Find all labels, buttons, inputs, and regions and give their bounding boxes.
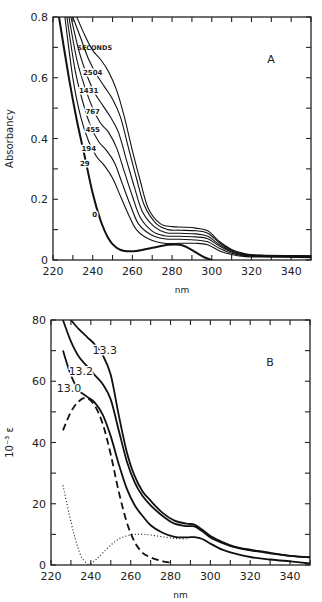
y-tick-label: 0.6 <box>31 72 49 85</box>
y-tick-label: 60 <box>32 375 46 388</box>
y-tick-label: 0.8 <box>31 11 49 24</box>
x-tick-label: 300 <box>201 265 222 278</box>
x-tick-label: 320 <box>240 570 261 583</box>
series-line <box>63 485 187 564</box>
x-tick-label: 260 <box>122 265 143 278</box>
x-tick-label: 280 <box>162 265 183 278</box>
y-tick-label: 20 <box>32 498 46 511</box>
y-tick-label: 0.2 <box>31 193 49 206</box>
x-tick-label: 240 <box>80 570 101 583</box>
series-label: 0 <box>92 211 97 219</box>
y-tick-label: 0 <box>41 254 48 267</box>
y-axis-label: 10⁻³ ε <box>4 427 15 458</box>
series-line <box>71 17 311 256</box>
y-axis-label: Absorbancy <box>4 109 15 168</box>
series-line <box>73 17 311 256</box>
series-line <box>77 17 311 256</box>
x-axis-label: nm <box>173 590 187 600</box>
x-tick-label: 340 <box>281 265 302 278</box>
panel-label: B <box>266 356 274 369</box>
y-tick-label: 0.4 <box>31 133 49 146</box>
series-label: 455 <box>85 126 100 134</box>
series-label: 194 <box>81 145 96 153</box>
series-line <box>59 17 212 260</box>
series-label: 13.3 <box>93 344 118 357</box>
series-line <box>63 351 310 564</box>
x-axis-label: nm <box>175 285 189 295</box>
series-label: 13.2 <box>69 365 94 378</box>
x-tick-label: 240 <box>82 265 103 278</box>
x-tick-label: 320 <box>241 265 262 278</box>
series-label: 1431 <box>79 87 99 95</box>
panel-a-chart: 22024026028030032034000.20.40.60.8nmAbso… <box>4 11 311 295</box>
series-label: 2504 <box>83 69 103 77</box>
x-tick-label: 280 <box>160 570 181 583</box>
series-label: 29 <box>80 160 90 168</box>
y-tick-label: 0 <box>39 559 46 572</box>
y-tick-label: 80 <box>32 314 46 327</box>
y-tick-label: 40 <box>32 437 46 450</box>
legend-title: SECONDS <box>77 44 112 52</box>
x-tick-label: 340 <box>280 570 301 583</box>
panel-b-chart: 220240260280300320340020406080nm10⁻³ εB1… <box>4 314 310 600</box>
figure: 22024026028030032034000.20.40.60.8nmAbso… <box>0 0 322 602</box>
series-label: 13.0 <box>57 382 82 395</box>
x-tick-label: 300 <box>200 570 221 583</box>
panel-label: A <box>267 53 275 66</box>
series-label: 767 <box>85 108 100 116</box>
x-tick-label: 260 <box>120 570 141 583</box>
